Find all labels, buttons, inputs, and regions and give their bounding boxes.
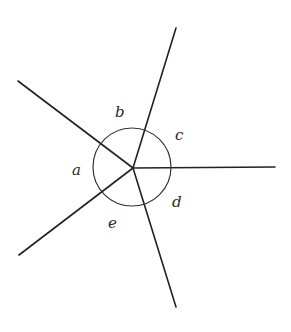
ray-bottom <box>133 168 176 307</box>
angle-diagram: abcde <box>0 0 291 332</box>
ray-top <box>133 28 176 168</box>
angle-label-a: a <box>72 161 81 179</box>
ray-lower-left <box>19 168 133 255</box>
ray-upper-left <box>18 81 133 168</box>
rays <box>18 28 275 307</box>
angle-label-d: d <box>172 193 182 211</box>
angle-label-b: b <box>115 103 125 121</box>
ray-right <box>133 167 275 168</box>
angle-label-c: c <box>175 126 184 144</box>
angle-label-e: e <box>108 214 117 232</box>
